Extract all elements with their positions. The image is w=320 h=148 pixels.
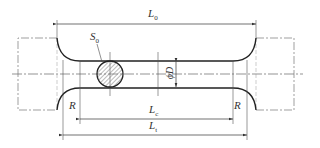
label-R-right: R (234, 100, 241, 111)
label-Lt: Lt (149, 120, 157, 134)
S0-leader (97, 44, 102, 62)
label-S0: S0 (90, 31, 99, 45)
label-R-left: R (69, 100, 76, 111)
cross-section-circle (97, 61, 123, 87)
label-Lc: Lc (149, 104, 158, 118)
label-L0: L0 (148, 8, 158, 22)
label-D: ϕD (165, 67, 175, 79)
